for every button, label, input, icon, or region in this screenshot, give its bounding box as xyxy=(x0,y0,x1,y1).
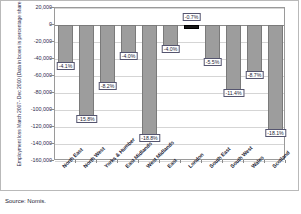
data-label: -4.1% xyxy=(56,62,75,70)
data-label: -18.1% xyxy=(265,129,286,137)
y-tick-label: 20,000 xyxy=(8,4,52,10)
data-label: -4.0% xyxy=(119,52,138,60)
bar-slot xyxy=(55,8,76,159)
bar-slot xyxy=(244,8,265,159)
x-tick-mark xyxy=(201,160,202,163)
bar-slot xyxy=(181,8,202,159)
data-label: -4.0% xyxy=(161,45,180,53)
data-label: -5.5% xyxy=(203,58,222,66)
source-note: Source: Nomis. xyxy=(5,198,46,204)
data-label: -11.4% xyxy=(223,89,244,97)
x-tick-mark xyxy=(264,160,265,163)
bar[interactable] xyxy=(205,25,219,62)
plot-inner: -4.1%-15.8%-8.2%-4.0%-18.8%-4.0%-0.7%-5.… xyxy=(55,8,284,159)
y-tick-label: -60,000 xyxy=(8,72,52,78)
x-tick-mark xyxy=(117,160,118,163)
bar[interactable] xyxy=(58,25,72,66)
bar[interactable] xyxy=(226,25,240,93)
bar-slot xyxy=(118,8,139,159)
plot-area: -4.1%-15.8%-8.2%-4.0%-18.8%-4.0%-0.7%-5.… xyxy=(54,7,285,160)
x-tick-mark xyxy=(159,160,160,163)
bar-series xyxy=(55,8,284,159)
y-tick-label: -40,000 xyxy=(8,55,52,61)
y-tick-label: -140,000 xyxy=(8,140,52,146)
y-tick-label: 0 xyxy=(8,21,52,27)
bar-slot xyxy=(160,8,181,159)
data-label: -15.8% xyxy=(76,115,97,123)
bar[interactable] xyxy=(142,25,156,138)
x-tick-mark xyxy=(243,160,244,163)
data-label: -8.7% xyxy=(245,71,264,79)
bar-slot xyxy=(223,8,244,159)
y-tick-mark xyxy=(50,160,54,161)
x-tick-mark xyxy=(138,160,139,163)
x-tick-mark xyxy=(96,160,97,163)
chart-screenshot: Employment loss March 2007- Dec 2010 (Da… xyxy=(0,0,301,214)
x-tick-mark xyxy=(75,160,76,163)
x-tick-mark xyxy=(222,160,223,163)
y-tick-label: -20,000 xyxy=(8,38,52,44)
bar[interactable] xyxy=(184,25,198,29)
y-tick-label: -80,000 xyxy=(8,89,52,95)
data-label: -8.2% xyxy=(98,82,117,90)
bar[interactable] xyxy=(247,25,261,75)
x-tick-mark xyxy=(285,160,286,163)
bar[interactable] xyxy=(268,25,282,133)
bar-slot xyxy=(202,8,223,159)
bar[interactable] xyxy=(100,25,114,86)
data-label: -0.7% xyxy=(182,13,201,21)
y-tick-label: -120,000 xyxy=(8,123,52,129)
bar-slot xyxy=(76,8,97,159)
bar[interactable] xyxy=(79,25,93,119)
y-tick-label: -160,000 xyxy=(8,157,52,163)
x-tick-mark xyxy=(180,160,181,163)
y-tick-label: -100,000 xyxy=(8,106,52,112)
